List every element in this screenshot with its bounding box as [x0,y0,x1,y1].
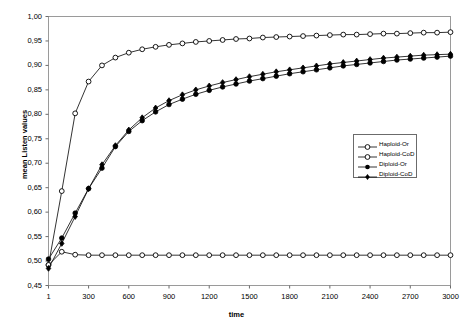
series-marker [234,77,239,83]
series-marker [220,38,225,43]
series-marker [46,257,51,262]
series-marker [73,252,78,257]
legend-item: Diploid-CoD [357,168,413,178]
y-tick-label: 1,00 [8,12,42,21]
series-marker [274,35,279,40]
y-tick-label: 0,95 [8,36,42,45]
legend-item: Haploid-CoD [357,148,413,158]
series-marker [261,71,266,77]
series-marker [247,253,252,258]
series-marker [207,39,212,44]
x-tick-label: 2400 [350,292,390,301]
series-marker [421,253,426,258]
y-tick-label: 0,50 [8,256,42,265]
x-tick-label: 3000 [431,292,471,301]
series-marker [113,253,118,258]
series-marker [180,92,185,98]
series-marker [126,50,131,55]
series-marker [100,253,105,258]
y-tick-label: 0,80 [8,109,42,118]
x-tick-label: 2100 [310,292,350,301]
series-marker [140,253,145,258]
series-marker [301,34,306,39]
series-marker [86,253,91,258]
legend-symbol-open-circle-icon [357,138,378,148]
series-marker [167,42,172,47]
x-tick-label: 2700 [390,292,430,301]
legend-item: Haploid-Or [357,138,413,148]
y-tick-label: 0,75 [8,134,42,143]
series-marker [260,35,265,40]
series-marker [408,31,413,36]
series-marker [247,74,252,80]
series-marker [274,253,279,258]
series-marker [394,253,399,258]
series-marker [86,79,91,84]
series-marker [381,253,386,258]
legend-symbol-filled-circle-icon [357,158,378,168]
y-tick-label: 0,55 [8,232,42,241]
chart-figure: mean Listen values time 0,450,500,550,60… [0,0,473,329]
legend-symbol-open-circle-icon [357,148,378,158]
y-tick-label: 0,70 [8,158,42,167]
series-marker [100,63,105,68]
series-marker [274,69,279,75]
series-marker [421,30,426,35]
series-marker [314,33,319,38]
x-tick-label: 1200 [189,292,229,301]
series-marker [368,253,373,258]
series-marker [287,253,292,258]
series-marker [448,253,453,258]
y-tick-label: 0,65 [8,183,42,192]
series-marker [408,253,413,258]
series-marker [207,253,212,258]
series-marker [59,249,64,254]
y-tick-label: 0,45 [8,281,42,290]
x-tick-label: 900 [149,292,189,301]
legend-label: Diploid-CoD [379,170,412,177]
y-tick-label: 0,90 [8,60,42,69]
series-marker [140,47,145,52]
legend-label: Haploid-CoD [379,150,414,157]
series-marker [448,30,453,35]
series-marker [354,253,359,258]
series-marker [435,253,440,258]
series-marker [287,34,292,39]
legend-item: Diploid-Or [357,158,413,168]
legend-symbol-filled-diamond-icon [357,168,378,178]
series-marker [394,31,399,36]
series-marker [327,33,332,38]
series-marker [220,253,225,258]
series-marker [435,30,440,35]
series-haploid-cod [46,249,453,267]
series-marker [341,253,346,258]
series-marker [314,253,319,258]
x-tick-label: 1800 [270,292,310,301]
series-marker [113,55,118,60]
series-marker [180,41,185,46]
series-marker [207,83,212,89]
x-tick-label: 1 [29,292,69,301]
x-tick-label: 300 [69,292,109,301]
series-marker [341,32,346,37]
series-marker [167,253,172,258]
legend-label: Diploid-Or [379,160,407,167]
series-marker [260,253,265,258]
y-tick-label: 0,60 [8,207,42,216]
series-marker [126,253,131,258]
series-marker [180,253,185,258]
y-tick-label: 0,85 [8,85,42,94]
series-marker [194,87,199,93]
series-marker [381,31,386,36]
series-marker [220,80,225,86]
x-tick-label: 600 [109,292,149,301]
x-tick-label: 1500 [229,292,269,301]
series-marker [301,253,306,258]
legend-label: Haploid-Or [379,140,409,147]
series-marker [153,253,158,258]
series-marker [193,40,198,45]
series-marker [153,44,158,49]
series-marker [327,253,332,258]
series-marker [368,32,373,37]
series-marker [354,32,359,37]
